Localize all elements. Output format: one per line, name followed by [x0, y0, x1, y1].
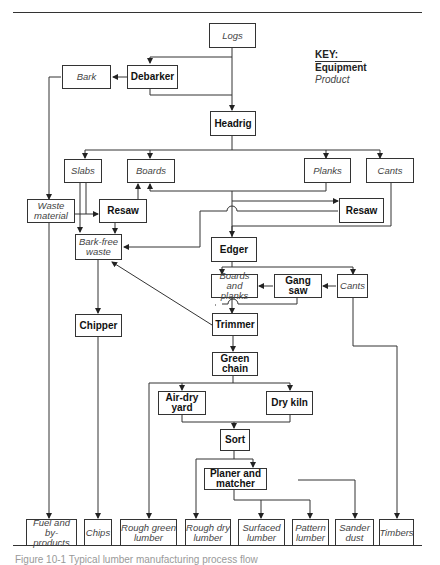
- node-waste-material: Waste material: [27, 199, 75, 223]
- legend-key: KEY: Equipment Product: [315, 49, 367, 86]
- node-sort: Sort: [220, 429, 250, 451]
- key-product: Product: [315, 74, 367, 86]
- node-planks: Planks: [304, 158, 351, 183]
- node-resaw-left: Resaw: [99, 199, 147, 223]
- node-headrig: Headrig: [210, 111, 256, 136]
- node-planer-and-matcher: Planer and matcher: [204, 468, 267, 490]
- node-boards: Boards: [127, 159, 175, 183]
- node-rough-green-lumber: Rough green lumber: [120, 519, 177, 546]
- node-cants-top: Cants: [366, 158, 414, 183]
- node-bark: Bark: [62, 65, 111, 89]
- node-chipper: Chipper: [75, 314, 122, 337]
- node-rough-dry-lumber: Rough dry lumber: [185, 519, 231, 546]
- node-chips: Chips: [84, 519, 112, 546]
- node-sander-dust: Sander dust: [335, 519, 374, 546]
- node-cants-mid: Cants: [337, 274, 368, 298]
- node-bark-free-waste: Bark-free waste: [75, 234, 122, 260]
- node-pattern-lumber: Pattern lumber: [292, 519, 329, 546]
- node-trimmer: Trimmer: [212, 313, 258, 336]
- key-equipment: Equipment: [315, 62, 367, 74]
- node-surfaced-lumber: Surfaced lumber: [238, 519, 285, 546]
- node-timbers: Timbers: [379, 519, 414, 546]
- node-air-dry-yard: Air-dry yard: [158, 391, 206, 415]
- node-logs: Logs: [209, 23, 256, 48]
- node-resaw-right: Resaw: [339, 198, 384, 223]
- figure-caption: Figure 10-1 Typical lumber manufacturing…: [15, 554, 258, 565]
- node-gang-saw: Gang saw: [274, 274, 322, 298]
- node-slabs: Slabs: [64, 159, 102, 183]
- node-dry-kiln: Dry kiln: [266, 391, 313, 415]
- node-boards-and-planks: Boards and planks: [211, 274, 258, 298]
- node-debarker: Debarker: [127, 65, 178, 89]
- node-fuel-and-byproducts: Fuel and by-products: [26, 519, 77, 546]
- node-edger: Edger: [211, 237, 257, 262]
- key-title: KEY:: [315, 49, 362, 62]
- node-green-chain: Green chain: [212, 352, 258, 376]
